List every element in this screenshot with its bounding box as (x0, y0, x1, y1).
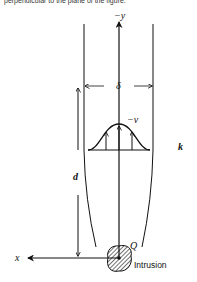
plume-right-boundary (142, 24, 153, 247)
point-q-label: Q (130, 240, 138, 251)
source-point (117, 256, 121, 260)
width-label: δ (116, 80, 121, 91)
distance-label: d (73, 171, 79, 182)
plume-left-boundary (84, 24, 96, 247)
intrusion-label: Intrusion (134, 260, 167, 270)
plume-diagram: −y x δ d −v k Q Intrusion (0, 0, 197, 282)
y-axis-label: −y (114, 10, 126, 21)
x-axis-label: x (14, 252, 20, 263)
velocity-label: −v (127, 114, 139, 125)
conductivity-label: k (178, 141, 183, 152)
